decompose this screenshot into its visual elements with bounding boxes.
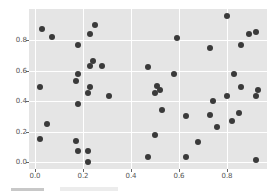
data-point — [214, 124, 220, 130]
plot-area — [29, 9, 267, 169]
caption-bar — [11, 188, 44, 191]
y-tick-label: 0.0 — [16, 158, 27, 166]
data-point — [229, 118, 235, 124]
data-point — [195, 139, 201, 145]
data-point — [224, 93, 230, 99]
data-point — [37, 84, 43, 90]
gridline-y — [29, 101, 267, 102]
data-point — [246, 31, 252, 37]
data-point — [253, 93, 259, 99]
data-point — [85, 90, 91, 96]
gridline-x — [83, 9, 84, 169]
data-point — [152, 90, 158, 96]
y-tick-label: 0.2 — [16, 128, 27, 136]
gridline-x — [179, 9, 180, 169]
y-tick-label: 0.8 — [16, 36, 27, 44]
data-point — [159, 107, 165, 113]
data-point — [106, 93, 112, 99]
data-point — [85, 159, 91, 165]
x-tick-label: 0.4 — [125, 172, 136, 180]
data-point — [207, 45, 213, 51]
gridline-x — [35, 9, 36, 169]
x-tick-label: 0.8 — [221, 172, 232, 180]
data-point — [238, 42, 244, 48]
data-point — [99, 63, 105, 69]
data-point — [183, 113, 189, 119]
data-point — [210, 98, 216, 104]
y-tick-label: 0.4 — [16, 97, 27, 105]
data-point — [231, 71, 237, 77]
gridline-y — [29, 40, 267, 41]
x-tick-label: 0.6 — [173, 172, 184, 180]
data-point — [183, 154, 189, 160]
data-point — [238, 84, 244, 90]
data-point — [253, 29, 259, 35]
data-point — [37, 136, 43, 142]
y-tick-label: 0.6 — [16, 67, 27, 75]
data-point — [171, 71, 177, 77]
data-point — [87, 31, 93, 37]
caption-text-placeholder — [60, 187, 118, 191]
data-point — [75, 42, 81, 48]
data-point — [85, 148, 91, 154]
data-point — [73, 78, 79, 84]
data-point — [236, 110, 242, 116]
data-point — [44, 121, 50, 127]
data-point — [224, 13, 230, 19]
data-point — [152, 132, 158, 138]
data-point — [87, 84, 93, 90]
data-point — [75, 148, 81, 154]
data-point — [145, 154, 151, 160]
data-point — [207, 112, 213, 118]
data-point — [75, 101, 81, 107]
x-tick-label: 0.0 — [29, 172, 40, 180]
gridline-x — [227, 9, 228, 169]
data-point — [87, 63, 93, 69]
data-point — [92, 22, 98, 28]
data-point — [75, 71, 81, 77]
data-point — [255, 87, 261, 93]
gridline-y — [29, 132, 267, 133]
data-point — [49, 34, 55, 40]
data-point — [39, 26, 45, 32]
data-point — [73, 138, 79, 144]
gridline-y — [29, 162, 267, 163]
gridline-x — [131, 9, 132, 169]
x-tick-label: 0.2 — [77, 172, 88, 180]
